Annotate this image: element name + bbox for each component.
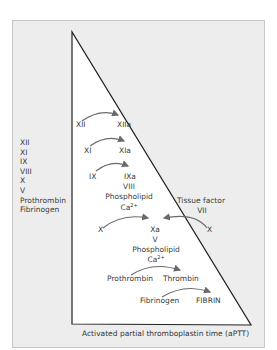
factor-list: XII XI IX VIII X V Prothrombin Fibrinoge… bbox=[20, 138, 66, 215]
factor-item: IX bbox=[20, 157, 66, 167]
label-phospholipid-2: Phospholipid bbox=[132, 245, 180, 254]
factor-item: Prothrombin bbox=[20, 196, 66, 206]
label-prothrombin: Prothrombin bbox=[107, 274, 153, 283]
label-v: V bbox=[152, 235, 157, 244]
label-vii: VII bbox=[197, 206, 207, 215]
label-fibrin: FIBRIN bbox=[196, 296, 221, 305]
label-fibrinogen: Fibrinogen bbox=[140, 296, 179, 305]
label-xi: XI bbox=[84, 146, 91, 155]
label-x-right: X bbox=[207, 225, 212, 234]
label-calcium-1: Ca2+ bbox=[120, 203, 137, 212]
label-xa: Xa bbox=[150, 225, 160, 234]
label-phospholipid-1: Phospholipid bbox=[105, 192, 153, 201]
label-xii: XII bbox=[76, 120, 86, 129]
label-viii: VIII bbox=[123, 182, 135, 191]
factor-item: VIII bbox=[20, 167, 66, 177]
label-ixa: IXa bbox=[124, 172, 136, 181]
label-x-left: X bbox=[98, 225, 103, 234]
factor-item: Fibrinogen bbox=[20, 205, 66, 215]
label-thrombin: Thrombin bbox=[163, 274, 199, 283]
apt-triangle bbox=[72, 32, 251, 325]
label-xia: XIa bbox=[119, 146, 131, 155]
factor-item: X bbox=[20, 176, 66, 186]
factor-item: XII bbox=[20, 138, 66, 148]
diagram-caption: Activated partial thromboplastin time (a… bbox=[82, 329, 249, 338]
label-tissue-factor: Tissue factor bbox=[177, 196, 225, 205]
factor-item: V bbox=[20, 186, 66, 196]
label-calcium-2: Ca2+ bbox=[147, 255, 164, 264]
label-xiia: XIIa bbox=[117, 120, 131, 129]
label-ix: IX bbox=[89, 172, 96, 181]
factor-item: XI bbox=[20, 148, 66, 158]
